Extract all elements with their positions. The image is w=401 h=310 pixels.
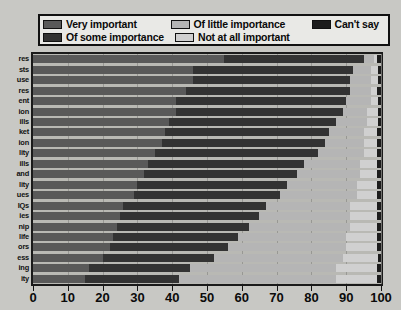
bar-segment	[378, 108, 381, 116]
bar-segment	[33, 97, 176, 105]
bar-segment	[280, 191, 357, 199]
bar-segment	[346, 233, 377, 241]
y-axis-label: res	[19, 87, 30, 95]
bar-segment	[378, 254, 381, 262]
y-axis-label: ills	[20, 118, 29, 126]
bar-segment	[190, 264, 336, 272]
bar-row	[33, 139, 381, 147]
bar-segment	[336, 264, 378, 272]
x-axis-tick-label: 40	[165, 290, 179, 305]
x-axis-tick-labels: 0102030405060708090100	[0, 290, 401, 308]
x-axis-tick-label: 100	[370, 290, 392, 305]
bar-segment	[176, 97, 347, 105]
y-axis-label: ing	[19, 264, 29, 272]
chart-screenshot: Very important Of little importance Can'…	[0, 0, 401, 310]
bar-segment	[350, 202, 378, 210]
bar-segment	[33, 233, 113, 241]
bar-segment	[33, 149, 155, 157]
bar-segment	[353, 66, 370, 74]
bar-segment	[377, 170, 380, 178]
bar-segment	[364, 55, 374, 63]
bar-segment	[228, 243, 346, 251]
bar-segment	[377, 160, 380, 168]
bar-segment	[224, 55, 363, 63]
bar-segment	[297, 170, 360, 178]
bar-segment	[120, 212, 259, 220]
y-axis-label: nip	[19, 223, 29, 231]
x-axis-tick-label: 20	[95, 290, 109, 305]
bar-segment	[343, 254, 378, 262]
bar-segment	[33, 108, 176, 116]
y-axis-label: lity	[19, 149, 29, 157]
bar-segment	[371, 66, 378, 74]
bar-segment	[378, 66, 381, 74]
bar-segment	[155, 149, 319, 157]
bar-segment	[377, 181, 380, 189]
bar-segment	[33, 66, 193, 74]
legend-item-of-some-importance: Of some importance	[43, 32, 169, 43]
bar-segment	[33, 202, 123, 210]
bar-segment	[169, 118, 336, 126]
bar-segment	[259, 212, 349, 220]
legend-swatch-of-some-importance	[43, 33, 62, 42]
y-axis-label: and	[16, 170, 29, 178]
bar-row	[33, 149, 381, 157]
bar-segment	[364, 149, 378, 157]
bar-segment	[360, 160, 377, 168]
bar-row	[33, 128, 381, 136]
bar-segment	[377, 139, 380, 147]
legend-label-cant-say: Can't say	[335, 19, 379, 30]
bar-row	[33, 223, 381, 231]
legend-row-1: Very important Of little importance Can'…	[43, 18, 385, 31]
x-axis-tick-label: 0	[29, 290, 36, 305]
bar-segment	[33, 264, 89, 272]
bar-row	[33, 76, 381, 84]
bar-segment	[33, 139, 162, 147]
bar-segment	[377, 223, 380, 231]
legend-label-very-important: Very important	[66, 19, 137, 30]
bar-segment	[378, 118, 381, 126]
bar-segment	[377, 191, 380, 199]
bar-segment	[33, 160, 148, 168]
bar-segment	[325, 139, 363, 147]
bar-segment	[33, 191, 134, 199]
bar-segment	[377, 243, 380, 251]
bar-segment	[350, 76, 371, 84]
y-axis-label: res	[19, 55, 30, 63]
bar-row	[33, 160, 381, 168]
bar-segment	[193, 76, 350, 84]
y-axis-labels: resstsuseresentionillsketionlityillsandl…	[0, 54, 30, 284]
bar-segment	[367, 118, 377, 126]
bar-segment	[364, 128, 378, 136]
legend-item-of-little-importance: Of little importance	[171, 19, 306, 30]
bar-row	[33, 55, 381, 63]
legend-swatch-not-at-all-important	[175, 33, 194, 42]
legend-label-not-at-all-important: Not at all important	[198, 32, 290, 43]
bar-row	[33, 170, 381, 178]
bar-segment	[162, 139, 326, 147]
bar-segment	[249, 223, 350, 231]
gridline	[381, 54, 382, 284]
y-axis-label: use	[17, 76, 29, 84]
bar-segment	[214, 254, 343, 262]
bar-row	[33, 97, 381, 105]
y-axis-label: ion	[19, 139, 29, 147]
bar-segment	[137, 181, 287, 189]
bar-segment	[179, 275, 336, 283]
bar-segment	[346, 243, 377, 251]
bar-row	[33, 264, 381, 272]
bar-segment	[378, 76, 381, 84]
y-axis-label: lity	[19, 181, 29, 189]
bar-segment	[33, 55, 224, 63]
bar-row	[33, 202, 381, 210]
bar-segment	[103, 254, 214, 262]
bar-row	[33, 254, 381, 262]
bar-segment	[186, 87, 350, 95]
bar-segment	[85, 275, 179, 283]
bar-segment	[350, 87, 371, 95]
bar-row	[33, 181, 381, 189]
bar-segment	[346, 97, 370, 105]
y-axis-label: ion	[19, 108, 29, 116]
bar-row	[33, 243, 381, 251]
legend-swatch-of-little-importance	[171, 20, 190, 29]
